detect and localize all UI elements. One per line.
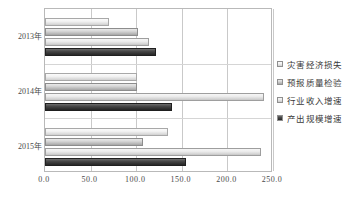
legend-item-行业收入增速[interactable]: 行业收入增速 [277,91,356,109]
y-axis-label-2013年: 2013年 [2,30,42,41]
x-axis-tick-200.0: 200.0 [216,175,237,184]
legend-item-预报质量检验[interactable]: 预报质量检验 [277,73,356,91]
bar-2015年-产出规模增速 [45,158,186,166]
legend-label: 灾害经济损失 [287,58,343,70]
bar-2014年-预报质量检验 [45,83,137,91]
legend-label: 产出规模增速 [287,112,343,124]
bar-2013年-产出规模增速 [45,48,156,56]
bar-2013年-行业收入增速 [45,38,149,46]
gridline [273,9,274,171]
bar-2014年-行业收入增速 [45,93,264,101]
bar-chart: 0.050.0100.0150.0200.0250.0 2013年2014年20… [0,0,356,208]
bar-2015年-行业收入增速 [45,148,261,156]
y-axis-label-2015年: 2015年 [2,139,42,150]
x-axis-tick-0.0: 0.0 [38,175,50,184]
group-separator [45,118,271,119]
plot-area [44,8,272,172]
legend-item-产出规模增速[interactable]: 产出规模增速 [277,109,356,127]
legend-label: 预报质量检验 [287,76,343,88]
bar-2014年-产出规模增速 [45,103,172,111]
legend-swatch-icon [277,61,283,67]
x-axis-tick-250.0: 250.0 [262,175,283,184]
chart-legend: 灾害经济损失预报质量检验行业收入增速产出规模增速 [277,55,356,127]
legend-item-灾害经济损失[interactable]: 灾害经济损失 [277,55,356,73]
bar-2015年-灾害经济损失 [45,128,168,136]
x-axis-tick-100.0: 100.0 [125,175,146,184]
legend-swatch-icon [277,115,283,121]
legend-swatch-icon [277,97,283,103]
x-axis-tick-50.0: 50.0 [82,175,98,184]
group-separator [45,64,271,65]
bar-2015年-预报质量检验 [45,138,143,146]
legend-swatch-icon [277,79,283,85]
y-axis-label-2014年: 2014年 [2,85,42,96]
bar-2013年-灾害经济损失 [45,18,109,26]
x-axis-tick-150.0: 150.0 [171,175,192,184]
bar-2014年-灾害经济损失 [45,73,137,81]
bar-2013年-预报质量检验 [45,28,138,36]
legend-label: 行业收入增速 [287,94,343,106]
